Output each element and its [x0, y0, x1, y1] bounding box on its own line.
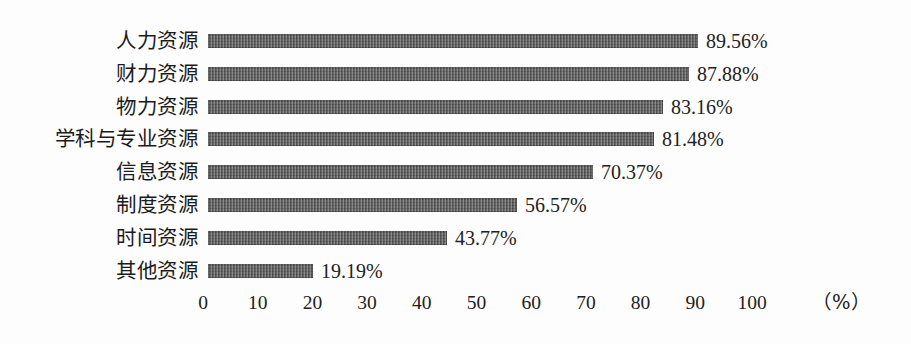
table-row: 物力资源 83.16% [0, 92, 911, 122]
category-label: 制度资源 [0, 190, 198, 220]
table-row: 财力资源 87.88% [0, 59, 911, 89]
bar-value-label: 56.57% [525, 190, 587, 220]
bar-chart: 人力资源 89.56% 财力资源 87.88% 物力资源 83.16% 学科与专… [0, 0, 911, 344]
bar-value-label: 70.37% [601, 157, 663, 187]
table-row: 其他资源 19.19% [0, 256, 911, 286]
table-row: 信息资源 70.37% [0, 157, 911, 187]
bar [208, 231, 447, 245]
category-label: 信息资源 [0, 157, 198, 187]
x-tick-label: 10 [248, 290, 268, 316]
x-axis-unit-label: （%） [812, 290, 871, 316]
category-label: 人力资源 [0, 26, 198, 56]
table-row: 时间资源 43.77% [0, 223, 911, 253]
table-row: 学科与专业资源 81.48% [0, 124, 911, 154]
x-tick-label: 90 [686, 290, 706, 316]
x-tick-label: 80 [631, 290, 651, 316]
bar [208, 67, 689, 81]
category-label: 物力资源 [0, 92, 198, 122]
x-tick-label: 50 [467, 290, 487, 316]
bar [208, 198, 517, 212]
bar [208, 264, 313, 278]
x-tick-label: 20 [303, 290, 323, 316]
category-label: 财力资源 [0, 59, 198, 89]
x-tick-label: 40 [412, 290, 432, 316]
x-tick-label: 0 [198, 290, 208, 316]
table-row: 人力资源 89.56% [0, 26, 911, 56]
x-tick-label: 100 [737, 290, 766, 316]
chart-plot-area: 人力资源 89.56% 财力资源 87.88% 物力资源 83.16% 学科与专… [0, 0, 911, 286]
bar [208, 165, 593, 179]
bar [208, 100, 663, 114]
bar-value-label: 83.16% [671, 92, 733, 122]
category-label: 学科与专业资源 [0, 124, 198, 154]
bar-value-label: 43.77% [455, 223, 517, 253]
table-row: 制度资源 56.57% [0, 190, 911, 220]
x-axis: 0 10 20 30 40 50 60 70 80 90 100 （%） [0, 286, 911, 326]
bar-value-label: 89.56% [706, 26, 768, 56]
x-tick-label: 30 [357, 290, 377, 316]
bar [208, 132, 654, 146]
bar-value-label: 19.19% [321, 256, 383, 286]
x-tick-label: 70 [576, 290, 596, 316]
bar-value-label: 81.48% [662, 124, 724, 154]
bar [208, 34, 698, 48]
category-label: 时间资源 [0, 223, 198, 253]
x-tick-label: 60 [521, 290, 541, 316]
category-label: 其他资源 [0, 256, 198, 286]
bar-value-label: 87.88% [697, 59, 759, 89]
